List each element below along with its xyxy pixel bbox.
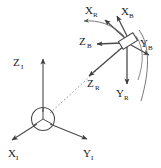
label-y-body-sub: B: [148, 44, 153, 52]
label-x-body: X B: [121, 5, 134, 20]
label-x-inertial: X I: [8, 147, 19, 162]
label-z-reference-main: Z: [87, 77, 94, 89]
label-y-inertial-main: Y: [83, 147, 91, 159]
label-z-body-main: Z: [79, 35, 86, 47]
label-y-body-main: Y: [140, 37, 148, 49]
axis-line-z-body: [97, 43, 122, 44]
coordinate-frames-diagram: Z I X I Y I X R X B Z B Y: [0, 0, 161, 168]
label-z-reference: Z R: [87, 77, 100, 92]
label-y-reference: Y R: [116, 87, 129, 102]
axis-line-y-inertial: [50, 124, 87, 139]
arc-x-rotation: [84, 21, 124, 36]
label-y-inertial: Y I: [83, 147, 94, 162]
label-y-inertial-sub: I: [91, 154, 94, 162]
label-x-inertial-main: X: [8, 147, 16, 159]
label-x-body-main: X: [121, 5, 129, 17]
axis-line-z-reference: [89, 46, 124, 76]
diagram-canvas: Z I X I Y I X R X B Z B Y: [0, 0, 161, 168]
label-x-reference-main: X: [85, 4, 93, 16]
label-z-reference-sub: R: [95, 84, 100, 92]
label-x-body-sub: B: [129, 12, 134, 20]
label-x-reference-sub: R: [93, 11, 98, 19]
label-x-reference: X R: [85, 4, 98, 19]
label-y-reference-main: Y: [116, 87, 124, 99]
origin-stub-lower-left: [34, 119, 43, 125]
label-z-inertial-sub: I: [21, 63, 24, 71]
axis-line-x-inertial: [12, 124, 37, 140]
label-z-inertial: Z I: [13, 56, 24, 71]
inertial-frame-group: [12, 59, 87, 140]
label-z-inertial-main: Z: [13, 56, 20, 68]
origin-stub-lower-right: [43, 119, 52, 124]
label-z-body: Z B: [79, 35, 92, 50]
label-x-inertial-sub: I: [16, 154, 19, 162]
label-z-body-sub: B: [87, 42, 92, 50]
label-y-reference-sub: R: [124, 94, 129, 102]
